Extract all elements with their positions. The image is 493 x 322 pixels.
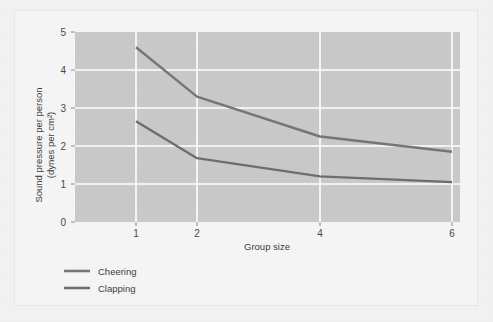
y-axis-title-line2: (dynes per cm²) — [45, 112, 56, 179]
y-axis-ticks: 012345 — [60, 27, 75, 228]
plot-area-background — [75, 32, 460, 222]
y-tick-label: 4 — [60, 65, 66, 76]
x-axis-title: Group size — [244, 241, 290, 252]
y-axis-title-line1: Sound pressure per person — [33, 87, 44, 202]
x-axis-ticks: 1246 — [133, 222, 455, 239]
chart-figure: 012345 1246 Sound pressure per person (d… — [0, 0, 493, 322]
y-tick-label: 0 — [60, 217, 66, 228]
x-tick-label: 4 — [317, 228, 323, 239]
chart-legend: CheeringClapping — [64, 266, 137, 294]
legend-label-clapping: Clapping — [98, 283, 136, 294]
x-tick-label: 6 — [449, 228, 455, 239]
legend-label-cheering: Cheering — [98, 266, 137, 277]
y-tick-label: 3 — [60, 103, 66, 114]
x-tick-label: 2 — [194, 228, 200, 239]
y-tick-label: 1 — [60, 179, 66, 190]
line-chart: 012345 1246 Sound pressure per person (d… — [0, 0, 493, 322]
y-tick-label: 2 — [60, 141, 66, 152]
y-tick-label: 5 — [60, 27, 66, 38]
x-tick-label: 1 — [133, 228, 139, 239]
